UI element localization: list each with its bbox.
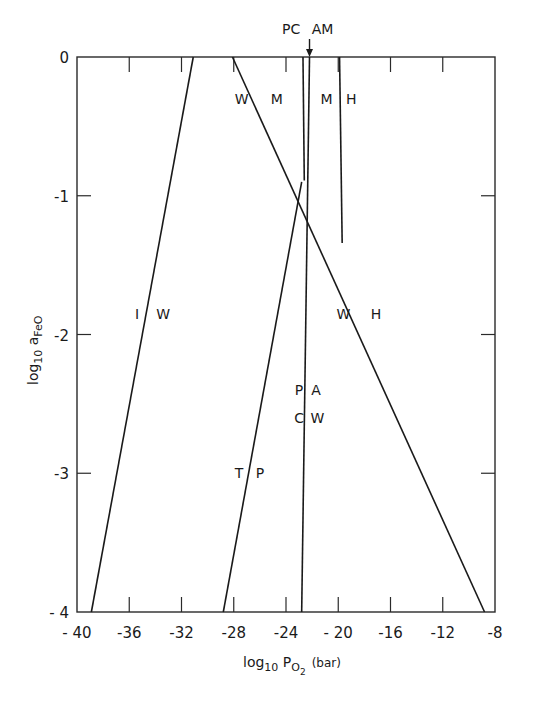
plot-frame [77,57,495,612]
boundary-line [302,57,310,612]
boundary-line [232,57,484,612]
region-label: M [320,91,332,107]
region-label: T [234,465,244,481]
region-label: C [294,410,304,426]
region-label: W [337,306,351,322]
region-label: W [156,306,170,322]
x-tick-label: -36 [117,624,142,642]
region-label: P [295,382,303,398]
region-label: W [235,91,249,107]
x-tick-label: -32 [169,624,194,642]
region-label: P [256,465,264,481]
x-tick-label: -16 [378,624,403,642]
y-tick-label: -1 [54,188,69,206]
x-tick-label: - 20 [324,624,353,642]
region-label: I [135,306,139,322]
boundary-line [340,57,343,243]
region-labels: PCAMWMMHIWWHPACWTP [135,21,381,481]
phase-boundary-lines [91,57,484,612]
y-axis-title: log10 aFeO [25,315,45,385]
boundary-line [91,57,193,612]
x-tick-label: - 40 [62,624,91,642]
region-label: H [371,306,382,322]
boundary-line [223,182,301,612]
x-tick-label: -28 [222,624,247,642]
x-tick-label: -24 [274,624,299,642]
arrow-down-icon [306,39,313,57]
region-label: AM [312,21,334,37]
axis-ticks [77,57,495,612]
phase-stability-diagram: - 40-36-32-28-24- 20-16-12-8 0-1-2-3- 4 … [0,0,547,705]
region-label: M [271,91,283,107]
x-tick-label: -12 [431,624,456,642]
y-tick-label: - 4 [49,604,69,622]
region-label: H [346,91,357,107]
region-label: A [311,382,321,398]
x-tick-labels: - 40-36-32-28-24- 20-16-12-8 [62,624,502,642]
y-tick-labels: 0-1-2-3- 4 [49,49,69,622]
x-tick-label: -8 [488,624,503,642]
plot-border [77,57,495,612]
y-tick-label: 0 [59,49,69,67]
region-label: PC [282,21,300,37]
y-tick-label: -2 [54,327,69,345]
boundary-line [303,57,304,180]
x-axis-title: log10 PO2(bar) [243,654,341,677]
y-tick-label: -3 [54,465,69,483]
region-label: W [310,410,324,426]
